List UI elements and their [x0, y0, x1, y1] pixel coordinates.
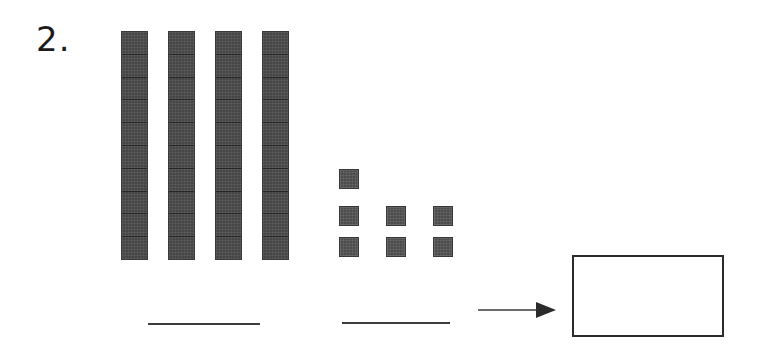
unit-cube	[339, 169, 359, 189]
rod-unit	[216, 169, 241, 192]
rod-unit	[216, 100, 241, 123]
rod-unit	[263, 214, 288, 237]
rod-unit	[263, 123, 288, 146]
rod-unit	[216, 32, 241, 55]
rod-unit	[263, 169, 288, 192]
unit-cube	[386, 237, 406, 257]
rod-unit	[122, 55, 147, 78]
rod-unit	[122, 78, 147, 101]
unit-cubes-group	[339, 169, 454, 257]
tens-rods-group	[121, 31, 289, 260]
unit-cube	[386, 206, 406, 226]
rod-unit	[122, 192, 147, 215]
rod-unit	[169, 214, 194, 237]
rod-unit	[216, 78, 241, 101]
rod-unit	[169, 146, 194, 169]
rod-unit	[122, 169, 147, 192]
unit-cube	[339, 206, 359, 226]
unit-cube	[433, 237, 453, 257]
ones-answer-blank[interactable]	[342, 322, 450, 324]
rod-unit	[169, 192, 194, 215]
rod-unit	[263, 146, 288, 169]
unit-cube-row	[339, 237, 453, 257]
rod-unit	[263, 100, 288, 123]
rod-unit	[263, 192, 288, 215]
rod-unit	[122, 237, 147, 259]
rod-unit	[216, 237, 241, 259]
rod-unit	[216, 55, 241, 78]
rod-unit	[122, 214, 147, 237]
rod-unit	[122, 32, 147, 55]
rod-unit	[169, 55, 194, 78]
worksheet-problem: 2.	[0, 0, 760, 352]
rod-unit	[216, 123, 241, 146]
rod-unit	[169, 237, 194, 259]
tens-rod	[121, 31, 148, 260]
rod-unit	[169, 169, 194, 192]
rod-unit	[122, 146, 147, 169]
rod-unit	[169, 123, 194, 146]
rod-unit	[122, 100, 147, 123]
answer-box[interactable]	[572, 255, 724, 337]
tens-rod	[262, 31, 289, 260]
rod-unit	[263, 78, 288, 101]
rod-unit	[169, 78, 194, 101]
right-arrow-icon	[476, 298, 560, 322]
unit-cube	[433, 206, 453, 226]
tens-rod	[168, 31, 195, 260]
problem-number: 2.	[36, 22, 70, 56]
rod-unit	[169, 100, 194, 123]
rod-unit	[216, 214, 241, 237]
tens-answer-blank[interactable]	[148, 323, 260, 325]
rod-unit	[263, 55, 288, 78]
rod-unit	[169, 32, 194, 55]
unit-cube-row	[339, 169, 359, 189]
tens-rod	[215, 31, 242, 260]
rod-unit	[263, 237, 288, 259]
rod-unit	[263, 32, 288, 55]
rod-unit	[216, 146, 241, 169]
unit-cube-row	[339, 206, 453, 226]
unit-cube	[339, 237, 359, 257]
rod-unit	[216, 192, 241, 215]
rod-unit	[122, 123, 147, 146]
